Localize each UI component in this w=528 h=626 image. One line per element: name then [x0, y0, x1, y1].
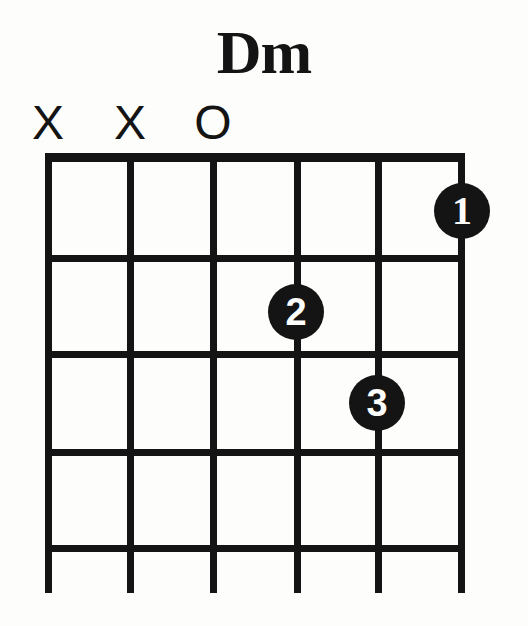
string-line-4 — [294, 153, 301, 593]
fretboard-grid: 1 2 3 — [0, 0, 528, 626]
fret-line-4 — [45, 545, 465, 552]
fret-line-3 — [45, 449, 465, 456]
string-line-2 — [127, 153, 134, 593]
string-line-1 — [45, 153, 52, 593]
string-line-3 — [210, 153, 217, 593]
fret-line-2 — [45, 351, 465, 358]
finger-dot-1: 1 — [434, 183, 490, 239]
nut-bar — [45, 153, 465, 162]
finger-dot-3: 3 — [349, 375, 405, 431]
chord-diagram-card: Dm X X O 1 2 3 — [0, 0, 528, 626]
string-line-5 — [375, 153, 382, 593]
fret-line-1 — [45, 255, 465, 262]
finger-dot-2: 2 — [268, 284, 324, 340]
